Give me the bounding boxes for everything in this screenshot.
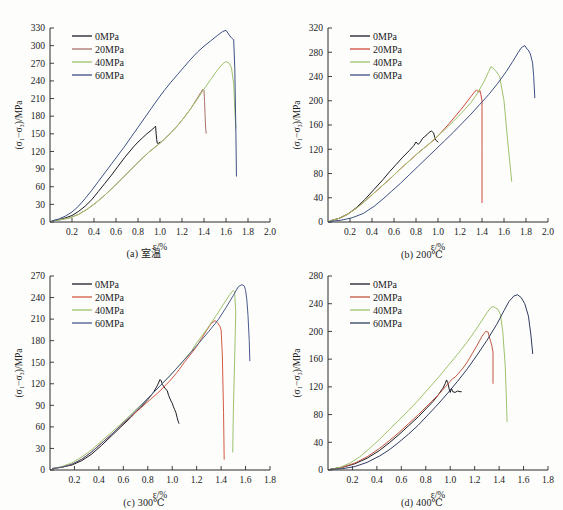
y-tick-label: 0 — [318, 217, 323, 227]
x-tick-label: 1.4 — [198, 227, 210, 237]
legend-label-40mpa: 40MPa — [373, 57, 402, 68]
data-curve-60mpa — [52, 30, 236, 220]
legend-label-60mpa: 60MPa — [373, 70, 402, 81]
chart-svg-d: 040801201602002402800.20.40.60.81.01.21.… — [286, 258, 558, 510]
x-tick-label: 1.0 — [444, 475, 456, 485]
panel-caption-c: (c) 300℃ — [8, 497, 280, 508]
legend-label-0mpa: 0MPa — [95, 31, 119, 42]
y-tick-label: 210 — [31, 314, 46, 324]
legend-label-20mpa: 20MPa — [95, 44, 124, 55]
figure-container: 03060901201501802102402703003300.20.40.6… — [0, 0, 563, 510]
chart-panel-c: 03060901201501802102402700.20.40.60.81.0… — [8, 258, 280, 510]
y-tick-label: 240 — [31, 76, 46, 86]
x-tick-label: 0.4 — [366, 227, 378, 237]
legend-label-40mpa: 40MPa — [95, 57, 124, 68]
x-tick-label: 0.6 — [395, 475, 407, 485]
y-tick-label: 270 — [31, 271, 46, 281]
x-tick-label: 1.6 — [518, 475, 530, 485]
y-tick-label: 120 — [309, 145, 324, 155]
x-tick-label: 0.4 — [371, 475, 383, 485]
data-curve-0mpa — [330, 380, 461, 469]
y-tick-label: 180 — [31, 336, 46, 346]
data-curve-0mpa — [52, 126, 160, 221]
x-tick-label: 1.0 — [154, 227, 166, 237]
chart-panel-b: 040801201602002402803200.20.40.60.81.01.… — [286, 10, 558, 262]
legend-label-0mpa: 0MPa — [373, 31, 397, 42]
y-tick-label: 30 — [36, 200, 46, 210]
x-tick-label: 1.0 — [166, 475, 178, 485]
y-tick-label: 240 — [309, 299, 324, 309]
y-tick-label: 280 — [309, 48, 324, 58]
x-tick-label: 1.8 — [542, 475, 554, 485]
legend-label-0mpa: 0MPa — [373, 279, 397, 290]
data-curve-20mpa — [52, 89, 206, 221]
y-tick-label: 40 — [314, 438, 324, 448]
y-tick-label: 120 — [309, 382, 324, 392]
y-tick-label: 90 — [36, 401, 46, 411]
y-axis-title: (σ₁−σ₃)/MPa — [14, 348, 25, 398]
y-tick-label: 150 — [31, 358, 46, 368]
y-tick-label: 210 — [31, 94, 46, 104]
x-tick-label: 1.0 — [432, 227, 444, 237]
legend-label-20mpa: 20MPa — [373, 292, 402, 303]
y-tick-label: 280 — [309, 271, 324, 281]
chart-svg-a: 03060901201501802102402703003300.20.40.6… — [8, 10, 280, 262]
x-tick-label: 1.4 — [215, 475, 227, 485]
x-tick-label: 1.4 — [493, 475, 505, 485]
y-tick-label: 40 — [314, 193, 324, 203]
y-tick-label: 240 — [31, 293, 46, 303]
data-curve-40mpa — [330, 306, 507, 469]
y-tick-label: 0 — [318, 465, 323, 475]
chart-svg-c: 03060901201501802102402700.20.40.60.81.0… — [8, 258, 280, 510]
legend-label-0mpa: 0MPa — [95, 279, 119, 290]
y-tick-label: 240 — [309, 72, 324, 82]
x-tick-label: 0.8 — [410, 227, 422, 237]
data-curve-20mpa — [52, 321, 224, 469]
axis-lines — [50, 28, 270, 222]
data-curve-20mpa — [330, 90, 482, 221]
y-tick-label: 60 — [36, 182, 46, 192]
axis-lines — [328, 276, 548, 470]
x-tick-label: 0.8 — [132, 227, 144, 237]
data-curve-0mpa — [330, 131, 438, 221]
y-tick-label: 200 — [309, 96, 324, 106]
x-tick-label: 0.6 — [110, 227, 122, 237]
x-tick-label: 0.2 — [69, 475, 81, 485]
y-tick-label: 120 — [31, 379, 46, 389]
legend-label-20mpa: 20MPa — [373, 44, 402, 55]
y-tick-label: 270 — [31, 59, 46, 69]
x-tick-label: 1.8 — [242, 227, 254, 237]
x-tick-label: 1.8 — [264, 475, 276, 485]
y-tick-label: 0 — [40, 465, 45, 475]
data-curve-20mpa — [330, 331, 493, 469]
data-curve-40mpa — [330, 67, 512, 221]
y-tick-label: 180 — [31, 111, 46, 121]
x-tick-label: 1.2 — [469, 475, 481, 485]
y-tick-label: 90 — [36, 164, 46, 174]
y-tick-label: 330 — [31, 23, 46, 33]
panel-caption-d: (d) 400℃ — [286, 497, 558, 508]
x-tick-label: 1.4 — [476, 227, 488, 237]
y-tick-label: 160 — [309, 120, 324, 130]
y-tick-label: 200 — [309, 327, 324, 337]
x-tick-label: 1.6 — [240, 475, 252, 485]
y-tick-label: 80 — [314, 410, 324, 420]
y-tick-label: 320 — [309, 23, 324, 33]
axis-lines — [50, 276, 270, 470]
y-tick-label: 0 — [40, 217, 45, 227]
chart-panel-a: 03060901201501802102402703003300.20.40.6… — [8, 10, 280, 262]
chart-svg-b: 040801201602002402803200.20.40.60.81.01.… — [286, 10, 558, 262]
data-curve-40mpa — [52, 290, 235, 468]
legend-label-60mpa: 60MPa — [373, 318, 402, 329]
legend-label-40mpa: 40MPa — [373, 305, 402, 316]
y-tick-label: 80 — [314, 169, 324, 179]
chart-panel-d: 040801201602002402800.20.40.60.81.01.21.… — [286, 258, 558, 510]
y-tick-label: 120 — [31, 147, 46, 157]
y-tick-label: 160 — [309, 354, 324, 364]
y-tick-label: 60 — [36, 422, 46, 432]
y-axis-title: (σ₁−σ₃)/MPa — [292, 348, 303, 398]
x-tick-label: 2.0 — [264, 227, 276, 237]
y-tick-label: 300 — [31, 41, 46, 51]
x-tick-label: 0.4 — [88, 227, 100, 237]
y-tick-label: 150 — [31, 129, 46, 139]
